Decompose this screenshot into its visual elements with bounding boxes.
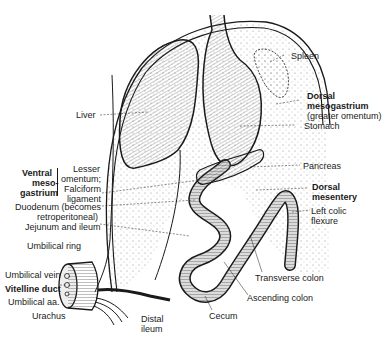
label-left-colic-1: Left colic xyxy=(311,206,347,216)
label-ventral-2: meso- xyxy=(32,178,59,188)
label-greater-omentum: (greater omentum) xyxy=(307,111,382,121)
label-umbilical-vein: Umbilical vein xyxy=(5,270,61,280)
label-spleen: Spleen xyxy=(291,51,319,61)
label-dorsal-mesentery-1: Dorsal xyxy=(312,182,340,192)
label-duodenum-2: retroperitoneal) xyxy=(37,212,98,222)
label-lesser-2: omentum; xyxy=(61,174,101,184)
label-dorsal-mesogastrium-2: mesogastrium xyxy=(307,101,369,111)
label-stomach: Stomach xyxy=(304,121,340,131)
label-ventral-3: gastrium xyxy=(20,188,58,198)
label-left-colic-2: flexure xyxy=(311,216,338,226)
label-distal-2: ileum xyxy=(141,324,163,334)
label-duodenum-1: Duodenum (becomes xyxy=(15,202,101,212)
label-lesser-1: Lesser xyxy=(60,164,100,174)
label-distal-1: Distal xyxy=(141,314,164,324)
label-dorsal-mesogastrium-1: Dorsal xyxy=(307,91,335,101)
label-jejunum: Jejunum and ileum xyxy=(25,222,101,232)
label-ventral-1: Ventral xyxy=(22,168,52,178)
label-umbilical-ring: Umbilical ring xyxy=(27,241,81,251)
label-ascending-colon: Ascending colon xyxy=(247,293,313,303)
label-transverse-colon: Transverse colon xyxy=(255,273,324,283)
label-urachus: Urachus xyxy=(32,311,66,321)
label-falciform-1: Falciform xyxy=(64,184,101,194)
label-pancreas: Pancreas xyxy=(303,161,341,171)
label-liver: Liver xyxy=(76,110,96,120)
label-cecum: Cecum xyxy=(209,311,238,321)
label-vitelline-duct: Vitelline duct xyxy=(5,284,61,294)
label-dorsal-mesentery-2: mesentery xyxy=(312,192,357,202)
label-umbilical-aa: Umbilical aa. xyxy=(8,297,60,307)
